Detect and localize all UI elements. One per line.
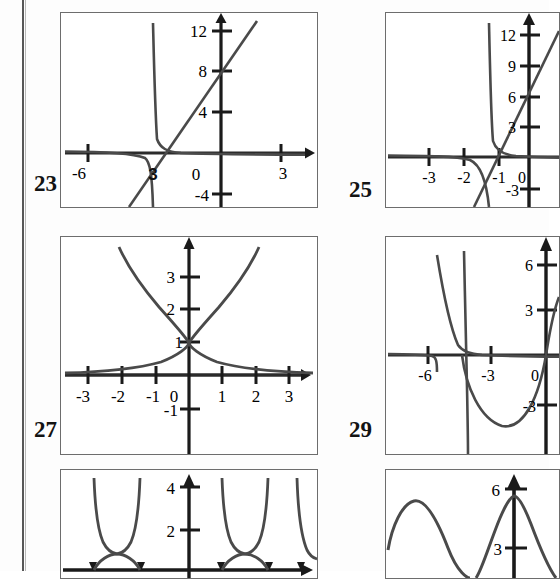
tick-label-29-x1: -3 xyxy=(481,367,494,384)
page-gutter-line-secondary xyxy=(25,0,26,571)
tick-label-27-x5: 3 xyxy=(285,387,294,406)
problem-number-25: 25 xyxy=(349,178,372,201)
tick-label-23-origin: 0 xyxy=(192,165,201,184)
curve-bl-arch-2 xyxy=(222,554,268,570)
graph-panel-25: -3 -2 -1 0 12 9 6 3 -3 xyxy=(385,12,560,208)
problem-number-27: 27 xyxy=(34,418,57,441)
tick-label-23-y3: -4 xyxy=(195,186,210,205)
tick-label-25-x1: -2 xyxy=(457,169,470,186)
tick-label-25-y3: 3 xyxy=(508,119,516,136)
tick-label-25-y1: 9 xyxy=(508,58,516,75)
tick-label-27-y3: -1 xyxy=(164,401,178,420)
graph-panel-29: -6 -3 0 6 3 -3 xyxy=(385,236,560,455)
tick-label-27-x1: -2 xyxy=(111,387,125,406)
curve-bl-branch-2 xyxy=(117,478,140,554)
curve-br-sinusoid-2 xyxy=(476,496,556,578)
curve-25-rational-left xyxy=(388,156,489,208)
tick-label-25-y0: 12 xyxy=(500,27,516,44)
graph-bottom-right-svg: 6 3 xyxy=(386,470,559,578)
axes-29 xyxy=(388,237,559,454)
tick-label-23-y1: 8 xyxy=(199,62,208,81)
tick-label-29-y0: 6 xyxy=(525,257,533,274)
curve-29-left-branch xyxy=(437,255,559,357)
tick-label-27-y0: 3 xyxy=(167,268,176,287)
tick-label-23-x-neg3: 3 xyxy=(148,165,157,184)
graph-23-svg: -6 3 12 8 4 -4 0 3 xyxy=(61,13,317,207)
graph-25-svg: -3 -2 -1 0 12 9 6 3 -3 xyxy=(386,13,559,207)
graph-panel-bottom-left: 4 2 xyxy=(60,469,318,579)
graph-bottom-left-svg: 4 2 xyxy=(61,470,317,578)
curve-29-descending xyxy=(464,251,468,454)
tick-label-23-x0: -6 xyxy=(72,164,86,183)
tick-label-27-x4: 2 xyxy=(252,387,261,406)
tick-label-27-y2: 1 xyxy=(175,333,184,352)
tick-label-29-y1: 3 xyxy=(525,302,533,319)
tick-label-29-y2: -3 xyxy=(523,398,536,415)
tick-label-29-x0: -6 xyxy=(418,367,431,384)
tick-label-29-origin: 0 xyxy=(531,367,539,384)
curve-bl-branch-4 xyxy=(245,478,268,554)
axes-23 xyxy=(65,13,315,207)
tick-label-27-x3: 1 xyxy=(218,387,227,406)
tick-label-bl-y1: 2 xyxy=(167,522,176,541)
curve-bl-branch-3 xyxy=(222,478,245,554)
curve-bl-arch-1 xyxy=(94,554,140,570)
tick-label-23-y0: 12 xyxy=(190,22,207,41)
curve-25-line xyxy=(474,31,559,207)
graph-panel-23: -6 3 12 8 4 -4 0 3 xyxy=(60,12,318,208)
axes-25 xyxy=(388,13,559,207)
graph-panel-27: -3 -2 -1 0 1 2 3 3 2 1 -1 xyxy=(60,236,318,455)
graph-29-svg: -6 -3 0 6 3 -3 xyxy=(386,237,559,454)
tick-label-25-y2: 6 xyxy=(508,89,516,106)
tick-label-27-y1: 2 xyxy=(167,300,176,319)
problem-number-23: 23 xyxy=(34,172,57,195)
tick-label-br-y0: 6 xyxy=(492,481,501,500)
curve-23-rational xyxy=(153,23,305,155)
tick-label-25-x0: -3 xyxy=(422,169,435,186)
graph-27-svg: -3 -2 -1 0 1 2 3 3 2 1 -1 xyxy=(61,237,317,454)
tick-label-25-x2: -1 xyxy=(492,169,505,186)
curve-bl-branch-1 xyxy=(94,478,117,554)
problem-number-29: 29 xyxy=(349,418,372,441)
graph-panel-bottom-right: 6 3 xyxy=(385,469,560,579)
tick-label-23-x1: 3 xyxy=(279,164,288,183)
page-gutter-line xyxy=(22,0,24,571)
tick-label-23-y2: 4 xyxy=(199,103,208,122)
tick-label-27-x2: -1 xyxy=(146,387,160,406)
curve-br-sinusoid xyxy=(388,501,470,578)
tick-label-25-y4: -3 xyxy=(506,182,519,199)
tick-label-bl-y0: 4 xyxy=(167,479,176,498)
tick-label-25-origin: 0 xyxy=(518,169,526,186)
curve-bl-branch-5 xyxy=(297,478,317,559)
tick-label-br-y1: 3 xyxy=(494,540,503,559)
tick-label-27-x0: -3 xyxy=(76,387,90,406)
